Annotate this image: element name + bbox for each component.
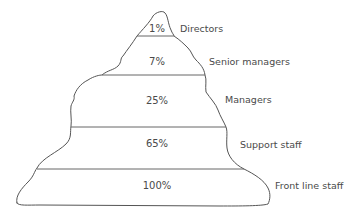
percentage-front-line-staff: 100% — [143, 180, 172, 191]
percentage-support-staff: 65% — [146, 138, 168, 149]
percentage-directors: 1% — [149, 23, 165, 34]
organisation-pyramid-diagram: 1% 7% 25% 65% 100% Directors Senior mana… — [0, 0, 351, 218]
label-directors: Directors — [180, 23, 223, 34]
percentage-managers: 25% — [146, 95, 168, 106]
label-managers: Managers — [225, 94, 272, 105]
pyramid-outline — [17, 12, 270, 206]
label-support-staff: Support staff — [240, 139, 302, 150]
label-front-line-staff: Front line staff — [275, 180, 344, 191]
label-senior-managers: Senior managers — [209, 56, 290, 67]
percentage-senior-managers: 7% — [149, 56, 165, 67]
